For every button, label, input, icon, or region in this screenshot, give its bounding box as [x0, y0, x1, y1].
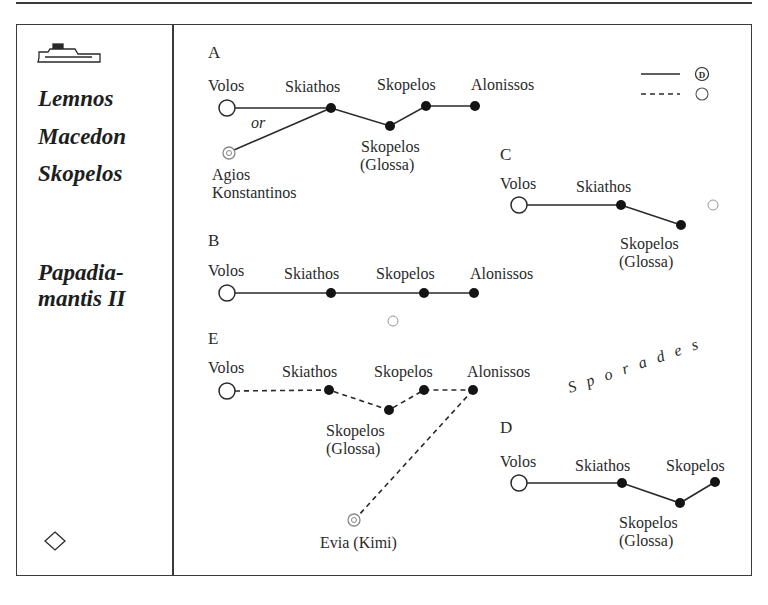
svg-text:Skiathos: Skiathos: [576, 178, 631, 195]
small-circle-icon: [708, 200, 718, 210]
svg-text:Skopelos: Skopelos: [666, 457, 725, 475]
legend: D: [641, 68, 709, 101]
svg-text:Alonissos: Alonissos: [467, 363, 530, 380]
svg-text:E: E: [208, 329, 218, 348]
svg-text:D: D: [500, 418, 512, 437]
svg-text:Skopelos: Skopelos: [374, 363, 433, 381]
svg-text:Skopelos: Skopelos: [377, 76, 436, 94]
svg-text:Volos: Volos: [208, 262, 244, 279]
route-a-label: A: [208, 43, 221, 62]
svg-text:Skopelos: Skopelos: [620, 235, 679, 253]
stop-glossa: [385, 121, 395, 131]
svg-text:Skopelos: Skopelos: [619, 514, 678, 532]
svg-text:Volos: Volos: [500, 175, 536, 192]
svg-text:Skiathos: Skiathos: [282, 363, 337, 380]
svg-text:Skopelos: Skopelos: [376, 265, 435, 283]
svg-text:Alonissos: Alonissos: [470, 265, 533, 282]
port-evia-kimi: [348, 514, 360, 526]
stop-alonissos: [470, 101, 480, 111]
route-b: B Volos Skiathos Skopelos Alonissos: [208, 231, 533, 326]
svg-text:Alonissos: Alonissos: [471, 76, 534, 93]
svg-text:Skiathos: Skiathos: [285, 78, 340, 95]
legend-d-circle-icon: D: [696, 68, 709, 81]
svg-text:Konstantinos: Konstantinos: [212, 184, 296, 201]
svg-text:(Glossa): (Glossa): [619, 532, 673, 550]
svg-text:D: D: [699, 70, 706, 80]
svg-text:Volos: Volos: [208, 77, 244, 94]
svg-text:B: B: [208, 231, 219, 250]
region-label-sporades: Sporades: [565, 332, 710, 397]
route-c: C Volos Skiathos Skopelos (Glossa): [500, 145, 718, 271]
svg-text:(Glossa): (Glossa): [360, 156, 414, 174]
route-diagram: .ln { stroke:#2a2a2a; stroke-width:1.6; …: [0, 0, 768, 605]
svg-text:or: or: [251, 114, 266, 131]
stop-skopelos: [421, 101, 431, 111]
svg-text:(Glossa): (Glossa): [326, 440, 380, 458]
svg-text:C: C: [500, 145, 511, 164]
port-volos: [219, 100, 235, 116]
route-d: D Volos Skiathos Skopelos Skopelos (Glos…: [500, 418, 725, 550]
svg-text:Skiathos: Skiathos: [284, 265, 339, 282]
svg-text:Skopelos: Skopelos: [361, 138, 420, 156]
svg-text:Volos: Volos: [208, 359, 244, 376]
svg-text:(Glossa): (Glossa): [619, 253, 673, 271]
legend-circle-icon: [696, 88, 708, 100]
port-agios-konstantinos: [223, 147, 235, 159]
svg-text:Skopelos: Skopelos: [326, 422, 385, 440]
route-a: A Volos Skiathos Skopelos Alonissos or S…: [208, 43, 534, 201]
svg-text:Skiathos: Skiathos: [575, 457, 630, 474]
small-circle-icon: [388, 316, 398, 326]
stop-skiathos: [326, 103, 336, 113]
svg-text:Agios: Agios: [212, 166, 250, 184]
svg-text:Evia (Kimi): Evia (Kimi): [320, 534, 397, 552]
route-e: E Volos Skiathos Skopelos Alonissos Skop…: [208, 329, 530, 552]
svg-text:Volos: Volos: [500, 453, 536, 470]
